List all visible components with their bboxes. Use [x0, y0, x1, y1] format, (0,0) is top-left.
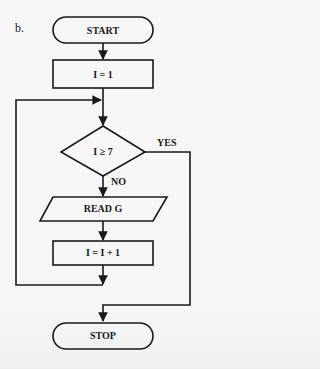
figure-label: b.: [15, 22, 24, 34]
init-label: I = 1: [93, 70, 113, 80]
increment-label: I = I + 1: [86, 248, 120, 258]
decision-label: I ≥ 7: [93, 147, 112, 157]
flowchart-canvas: [0, 0, 202, 369]
yes-branch-label: YES: [157, 138, 176, 148]
no-branch-label: NO: [111, 177, 126, 187]
start-label: START: [87, 26, 119, 36]
read-label: READ G: [84, 204, 123, 214]
stop-label: STOP: [90, 331, 116, 341]
